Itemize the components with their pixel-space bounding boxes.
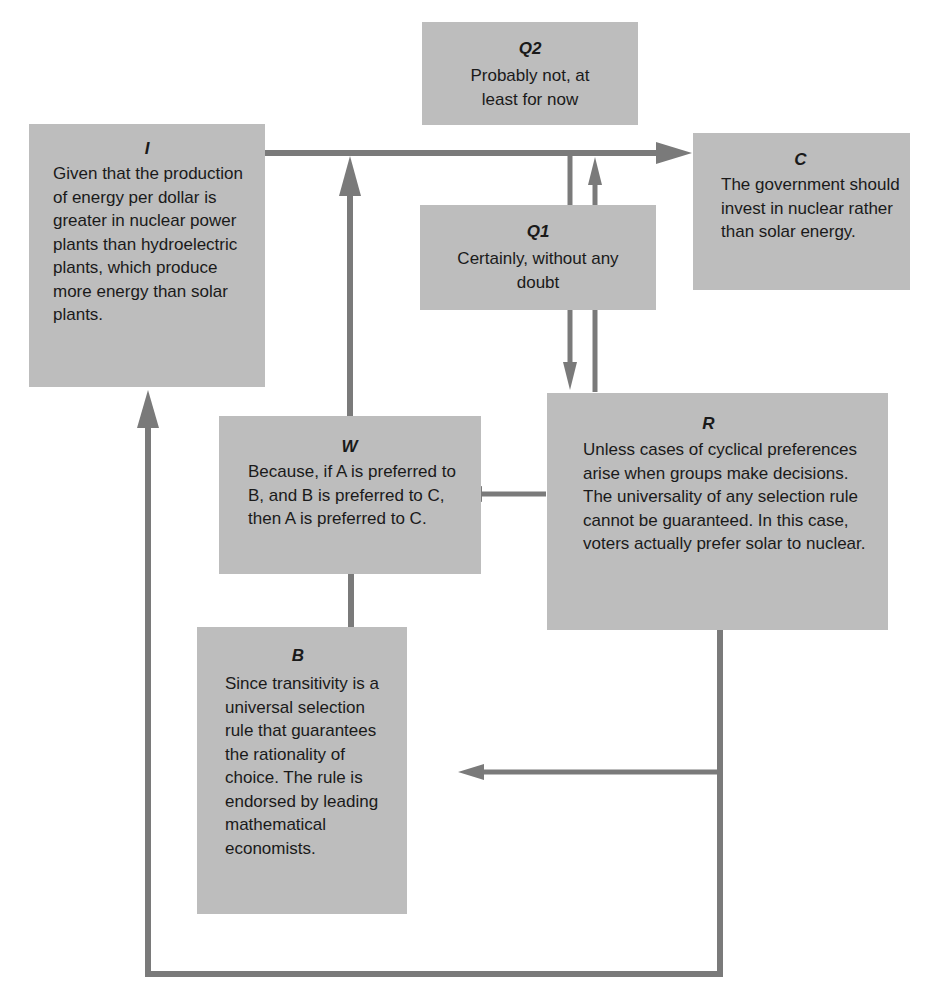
text-w: Because, if A is preferred to B, and B i… (248, 460, 471, 531)
arrowhead-i-icon (137, 390, 159, 428)
box-b-backing: B Since transitivity is a universal sele… (197, 627, 407, 914)
box-w-warrant: W Because, if A is preferred to B, and B… (219, 416, 481, 574)
arrowhead-r-down-icon (563, 362, 577, 390)
text-q2: Probably not, at least for now (428, 64, 632, 111)
text-q1: Certainly, without any doubt (432, 247, 644, 294)
text-r: Unless cases of cyclical preferences ari… (583, 438, 874, 556)
arrowhead-c-icon (656, 142, 692, 164)
label-i: I (53, 138, 257, 160)
box-r-rebuttal: R Unless cases of cyclical preferences a… (547, 393, 888, 630)
arrowhead-w-up-icon (339, 156, 361, 196)
box-q2-qualifier: Q2 Probably not, at least for now (422, 22, 638, 125)
arrowhead-b-icon (458, 764, 484, 780)
box-c-claim: C The government should invest in nuclea… (693, 133, 910, 290)
text-c: The government should invest in nuclear … (721, 173, 902, 244)
arrowhead-main-up-icon (588, 157, 602, 185)
text-b: Since transitivity is a universal select… (225, 672, 397, 860)
box-i-data: I Given that the production of energy pe… (29, 124, 265, 387)
text-i: Given that the production of energy per … (53, 162, 257, 327)
box-q1-qualifier: Q1 Certainly, without any doubt (420, 205, 656, 310)
label-c: C (721, 149, 902, 171)
label-q1: Q1 (432, 221, 644, 243)
label-r: R (583, 413, 874, 435)
label-b: B (225, 645, 397, 667)
label-w: W (248, 436, 471, 458)
label-q2: Q2 (428, 38, 632, 60)
